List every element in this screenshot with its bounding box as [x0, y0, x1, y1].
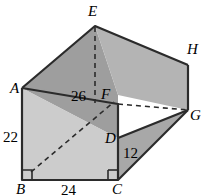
vertex-label-C: C — [112, 182, 122, 196]
vertex-label-A: A — [10, 81, 19, 96]
dimension-label-left-height: 22 — [3, 130, 18, 145]
vertex-label-B: B — [16, 182, 25, 196]
vertex-label-G: G — [190, 108, 201, 123]
dimension-label-bottom-width: 24 — [61, 183, 76, 196]
dimension-label-diagonal: 26 — [71, 89, 86, 104]
dimension-label-right-height: 12 — [123, 146, 138, 161]
vertex-label-D: D — [105, 131, 116, 146]
vertex-label-F: F — [101, 87, 110, 102]
vertex-label-E: E — [88, 4, 97, 19]
figure-canvas: A B C D E F G H 22 24 26 12 — [0, 0, 204, 196]
vertex-label-H: H — [187, 42, 198, 57]
